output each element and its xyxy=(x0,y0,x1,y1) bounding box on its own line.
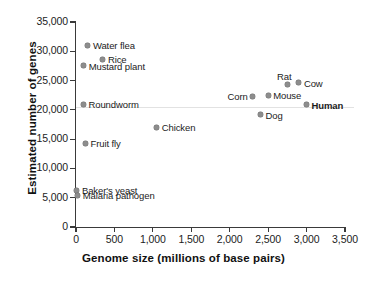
data-point-label: Human xyxy=(312,99,344,110)
data-point-label: Malaria pathogen xyxy=(83,190,155,201)
y-tick-mark xyxy=(70,51,75,52)
data-point-label: Roundworm xyxy=(88,99,138,110)
y-tick-mark xyxy=(70,80,75,81)
data-point-label: Mustard plant xyxy=(89,60,145,71)
data-point-label: Corn xyxy=(228,91,248,102)
scatter-chart: 05,00010,00015,00020,00025,00030,00035,0… xyxy=(0,0,367,290)
y-tick-mark xyxy=(70,109,75,110)
x-tick-label: 3,500 xyxy=(332,233,358,245)
y-tick-label: 25,000 xyxy=(36,74,68,86)
y-axis-title: Estimated number of genes xyxy=(26,8,38,228)
x-tick-mark xyxy=(344,227,345,232)
data-point-label: Rat xyxy=(277,71,291,82)
y-tick-label: 0 xyxy=(62,220,68,232)
data-point[interactable] xyxy=(266,93,271,98)
x-tick-label: 3,000 xyxy=(294,233,320,245)
x-tick-label: 500 xyxy=(106,233,123,245)
x-tick-label: 2,500 xyxy=(255,233,281,245)
data-point[interactable] xyxy=(81,102,86,107)
x-tick-mark xyxy=(75,227,76,232)
data-point-label: Dog xyxy=(265,109,282,120)
data-point-label: Water flea xyxy=(93,40,135,51)
y-tick-label: 5,000 xyxy=(42,191,68,203)
x-tick-label: 2,000 xyxy=(217,233,243,245)
data-point-label: Fruit fly xyxy=(90,138,120,149)
y-tick-mark xyxy=(70,139,75,140)
data-point[interactable] xyxy=(83,141,88,146)
x-tick-mark xyxy=(306,227,307,232)
y-tick-mark xyxy=(70,197,75,198)
y-tick-label: 20,000 xyxy=(36,103,68,115)
y-tick-label: 10,000 xyxy=(36,161,68,173)
data-point[interactable] xyxy=(285,82,290,87)
x-tick-mark xyxy=(268,227,269,232)
data-point[interactable] xyxy=(258,112,263,117)
data-point-label: Mouse xyxy=(273,90,301,101)
x-tick-mark xyxy=(152,227,153,232)
x-tick-mark xyxy=(191,227,192,232)
y-tick-mark xyxy=(70,168,75,169)
y-tick-mark xyxy=(70,21,75,22)
x-tick-mark xyxy=(229,227,230,232)
y-tick-label: 15,000 xyxy=(36,132,68,144)
x-axis-title: Genome size (millions of base pairs) xyxy=(0,252,367,264)
x-tick-label: 1,000 xyxy=(140,233,166,245)
x-tick-label: 1,500 xyxy=(178,233,204,245)
x-tick-label: 0 xyxy=(73,233,79,245)
y-tick-mark xyxy=(70,226,75,227)
x-tick-mark xyxy=(114,227,115,232)
data-point-label: Chicken xyxy=(162,122,196,133)
y-tick-label: 30,000 xyxy=(36,44,68,56)
y-tick-label: 35,000 xyxy=(36,15,68,27)
data-point-label: Cow xyxy=(304,77,323,88)
